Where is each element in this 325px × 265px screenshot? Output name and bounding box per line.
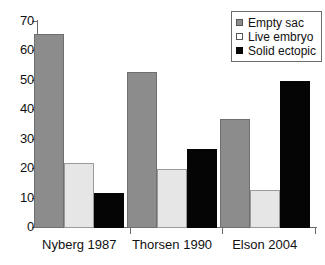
legend-swatch-live-embryo-icon [236, 33, 243, 40]
y-tick-label: 60 [6, 43, 34, 56]
bar [34, 34, 64, 228]
x-tick-mark [315, 228, 316, 234]
y-tick-label: 20 [6, 161, 34, 174]
x-tick-mark [222, 228, 223, 234]
bar [280, 81, 310, 228]
bar [157, 169, 187, 228]
bar [250, 190, 280, 228]
x-category-label: Elson 2004 [205, 238, 325, 252]
y-tick-label: 40 [6, 102, 34, 115]
bar [220, 119, 250, 228]
bar [94, 193, 124, 228]
bar [127, 72, 157, 228]
y-tick-label: 70 [6, 14, 34, 27]
bar [187, 149, 217, 228]
y-tick-label: 10 [6, 191, 34, 204]
legend-label-solid-ectopic: Solid ectopic [248, 45, 316, 57]
chart-legend: Empty sac Live embryo Solid ectopic [231, 11, 322, 62]
y-tick-label: 30 [6, 132, 34, 145]
legend-label-empty-sac: Empty sac [248, 17, 304, 29]
legend-swatch-solid-ectopic-icon [236, 47, 243, 54]
legend-item-solid-ectopic: Solid ectopic [236, 44, 316, 57]
legend-item-empty-sac: Empty sac [236, 16, 316, 29]
legend-label-live-embryo: Live embryo [248, 31, 313, 43]
y-tick-label: 0 [6, 220, 34, 233]
bar-chart: 010203040506070 Nyberg 1987Thorsen 1990E… [0, 0, 325, 265]
y-tick-label: 50 [6, 73, 34, 86]
legend-swatch-empty-sac-icon [236, 19, 243, 26]
bar [64, 163, 94, 228]
x-tick-mark [130, 228, 131, 234]
legend-item-live-embryo: Live embryo [236, 30, 316, 43]
